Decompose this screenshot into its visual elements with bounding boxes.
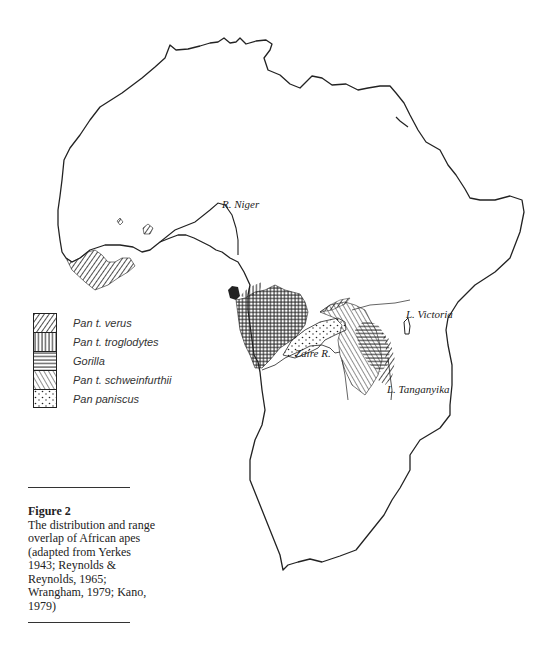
river-niger-upper bbox=[160, 203, 238, 255]
legend-label: Gorilla bbox=[73, 355, 105, 367]
legend-item: Pan t. schweinfurthii bbox=[33, 370, 171, 389]
range-pan-t-verus bbox=[66, 250, 135, 290]
swatch-stipple-icon bbox=[33, 389, 57, 408]
caption-top-rule bbox=[28, 487, 130, 488]
legend-item: Pan t. verus bbox=[33, 313, 171, 332]
sinai-tip bbox=[396, 117, 408, 127]
range-pan-t-verus-small bbox=[143, 224, 153, 234]
legend-item: Pan t. troglodytes bbox=[33, 332, 171, 351]
label-lake-victoria: L. Victoria bbox=[405, 308, 453, 320]
river-niger-lower bbox=[168, 268, 238, 290]
swatch-diagonal-hatch-icon bbox=[33, 313, 57, 332]
legend-item: Pan paniscus bbox=[33, 389, 171, 408]
range-pan-t-verus-islet bbox=[117, 218, 123, 225]
legend-item: Gorilla bbox=[33, 351, 171, 370]
swatch-vertical-hatch-icon bbox=[33, 332, 57, 351]
swatch-horizontal-hatch-icon bbox=[33, 351, 57, 370]
label-zaire-river: Zaire R. bbox=[295, 347, 331, 359]
red-sea-coast bbox=[395, 117, 470, 197]
legend: Pan t. verus Pan t. troglodytes Gorilla … bbox=[33, 313, 171, 408]
legend-label: Pan t. troglodytes bbox=[73, 336, 159, 348]
swatch-diagonal-left-hatch-icon bbox=[33, 370, 57, 389]
legend-label: Pan t. verus bbox=[73, 317, 132, 329]
label-lake-tanganyika: L. Tanganyika bbox=[386, 383, 450, 395]
caption-bottom-rule bbox=[28, 622, 130, 623]
figure-title: Figure 2 bbox=[28, 505, 158, 519]
legend-label: Pan paniscus bbox=[73, 393, 139, 405]
figure-caption-text: The distribution and range overlap of Af… bbox=[28, 519, 158, 614]
cameroon-blob bbox=[228, 286, 240, 300]
legend-label: Pan t. schweinfurthii bbox=[73, 374, 171, 386]
label-river-niger: R. Niger bbox=[221, 198, 260, 210]
figure-caption: Figure 2 The distribution and range over… bbox=[28, 505, 158, 613]
lake-victoria bbox=[404, 318, 410, 334]
